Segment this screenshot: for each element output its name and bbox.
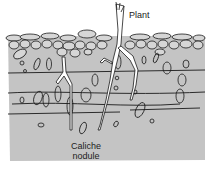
plant-label: Plant bbox=[129, 10, 150, 20]
caliche-nodule-label-line2: nodule bbox=[66, 151, 106, 161]
caliche-nodule-label-line1: Caliche bbox=[66, 141, 106, 151]
